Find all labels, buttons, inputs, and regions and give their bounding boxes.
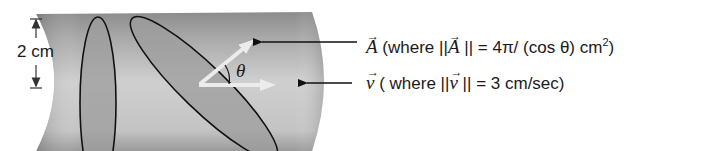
velocity-vector-prefix: ( where ||	[379, 74, 449, 93]
cylinder-flux-diagram	[0, 0, 712, 151]
area-vector-suffix: )	[609, 38, 615, 57]
velocity-vector-symbol: v	[366, 73, 374, 93]
velocity-vector-symbol-inline: v	[449, 73, 457, 93]
velocity-vector-magnitude: || = 3 cm/sec)	[463, 74, 565, 93]
velocity-vector-label: v ( where ||v || = 3 cm/sec)	[366, 73, 564, 94]
area-vector-prefix: (where ||	[382, 38, 448, 57]
area-vector-magnitude: || = 4π/ (cos θ) cm	[464, 38, 602, 57]
theta-label: θ	[236, 61, 245, 81]
dimension-label: 2 cm	[17, 42, 54, 62]
area-vector-symbol-inline: A	[448, 37, 460, 57]
area-vector-label: A (where ||A || = 4π/ (cos θ) cm2)	[366, 32, 614, 58]
area-vector-symbol: A	[366, 37, 378, 57]
